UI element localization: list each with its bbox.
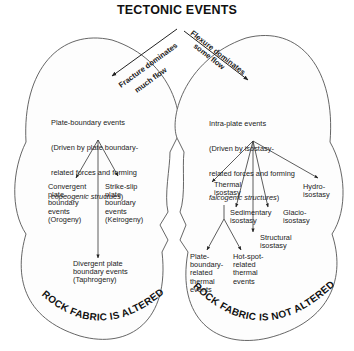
left-heading-line-3: related forces and forming — [51, 169, 138, 177]
left-heading-line-2: (Driven by plate boundary- — [51, 144, 138, 152]
right-heading-line-1: Intra-plate events — [209, 120, 295, 128]
right-heading-line-3: related forces and forming — [209, 170, 295, 178]
left-child-convergent: Convergent plate boundary events (Orogen… — [48, 183, 86, 224]
right-heading-line-2: (Driven by isostasy- — [209, 145, 295, 153]
thermal-child-plate-boundary: Plate- boundary- related thermal events — [190, 253, 223, 294]
left-heading-line-1: Plate-boundary events — [51, 119, 138, 127]
right-child-glacio: Glacio- isostasy — [283, 209, 310, 225]
right-heading-close: ) — [277, 193, 279, 202]
right-child-hydro: Hydro- isostasy — [303, 183, 330, 199]
left-child-strike-slip: Strike-slip plate boundary events (Keiro… — [105, 183, 143, 224]
right-child-sedimentary: Sedimentary isostasy — [230, 209, 272, 225]
thermal-child-hot-spot: Hot-spot- related thermal events — [233, 253, 263, 286]
right-child-structural: Structural isostasy — [260, 234, 292, 250]
right-child-thermal: Thermal isostasy — [214, 181, 241, 197]
diagram-title: TECTONIC EVENTS — [0, 3, 354, 17]
left-child-divergent: Divergent plate boundary events (Taphrog… — [73, 260, 128, 285]
